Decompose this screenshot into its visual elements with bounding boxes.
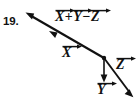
problem-number: 19. [3,16,18,28]
expression-term-x: X [55,9,64,24]
vector-y-letter: Y [97,82,106,97]
vector-z-label: Z [116,57,125,72]
expression-operator-plus: + [64,9,73,24]
expression-operator-minus: − [82,9,91,24]
resultant-expression-label: X + Y − Z [55,9,99,24]
expression-term-y-letter: Y [73,9,82,24]
expression-term-z-letter: Z [91,9,100,24]
vector-z-symbol: Z [116,57,125,72]
expression-term-x-letter: X [55,9,64,24]
vector-x-symbol: X [62,45,71,60]
vector-x-letter: X [62,45,71,60]
vector-z-arrowhead [125,89,134,97]
expression-term-z: Z [91,9,100,24]
vector-y-symbol: Y [97,82,106,97]
vector-x-label: X [62,45,71,60]
expression-term-y: Y [73,9,82,24]
vector-y-label: Y [97,82,106,97]
vector-figure: 19. X + Y − Z [0,0,138,102]
vector-z-letter: Z [116,57,125,72]
vector-x-midpoint-arrowhead [49,31,58,38]
resultant-vector-arrowhead [26,13,35,20]
